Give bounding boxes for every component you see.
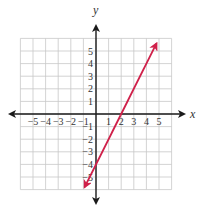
- x-tick-label: 1: [106, 116, 111, 127]
- coordinate-plane: −5−4−3−2−11234554321−1−2−3−4−5 x y: [0, 0, 197, 208]
- y-tick-label: −2: [82, 134, 93, 145]
- x-axis-label: x: [189, 107, 196, 121]
- x-tick-label: −4: [40, 116, 51, 127]
- y-axis-label: y: [92, 3, 99, 17]
- x-tick-label: 4: [144, 116, 149, 127]
- y-tick-label: 1: [88, 96, 93, 107]
- y-tick-label: 4: [88, 58, 93, 69]
- axes: [10, 26, 184, 203]
- x-tick-label: −2: [65, 116, 76, 127]
- x-tick-label: −3: [53, 116, 64, 127]
- y-tick-label: −3: [82, 146, 93, 157]
- y-tick-label: 3: [88, 71, 93, 82]
- y-tick-label: −1: [82, 121, 93, 132]
- y-tick-label: −4: [82, 159, 93, 170]
- x-tick-label: 3: [131, 116, 136, 127]
- x-tick-label: 5: [157, 116, 162, 127]
- x-tick-label: −5: [28, 116, 39, 127]
- line-series: [121, 43, 157, 115]
- y-tick-label: 5: [88, 46, 93, 57]
- y-tick-label: 2: [88, 83, 93, 94]
